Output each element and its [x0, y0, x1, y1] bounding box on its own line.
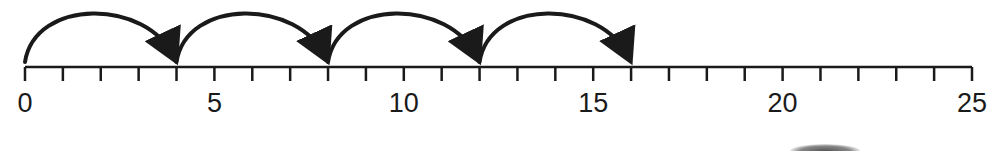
tick-label-25: 25 [957, 88, 987, 118]
tick-marks [25, 67, 972, 81]
scan-smudge [790, 144, 860, 151]
tick-label-15: 15 [578, 88, 608, 118]
tick-label-5: 5 [207, 88, 222, 118]
tick-label-0: 0 [17, 88, 32, 118]
jump-arc-0-to-4 [25, 13, 175, 62]
tick-label-20: 20 [768, 88, 798, 118]
jump-arc-12-to-16 [480, 13, 630, 62]
jump-arcs [25, 13, 629, 62]
tick-label-10: 10 [389, 88, 419, 118]
tick-labels: 0510152025 [17, 88, 987, 118]
number-line-diagram: 0510152025 [0, 0, 994, 151]
jump-arc-4-to-8 [177, 13, 327, 62]
jump-arc-8-to-12 [328, 13, 478, 62]
